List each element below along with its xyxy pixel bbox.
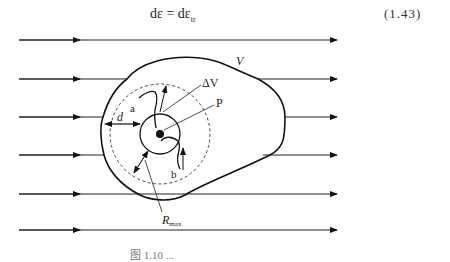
path-a [139, 91, 157, 128]
label-rmax: Rmax [161, 213, 182, 228]
label-v: V [236, 54, 245, 68]
label-p: P [216, 96, 223, 110]
flow-lines [19, 40, 337, 230]
point-p [156, 130, 164, 138]
label-b: b [171, 168, 177, 180]
label-a: a [130, 102, 135, 114]
label-d: d [117, 110, 124, 124]
figure-caption: 图 1.10 ... [130, 246, 174, 262]
label-delta-v: ΔV [202, 76, 219, 90]
volume-outline [101, 57, 285, 200]
